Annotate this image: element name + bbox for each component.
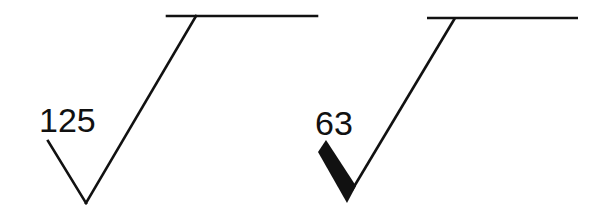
- short-leg: [48, 141, 86, 203]
- long-leg: [86, 16, 196, 203]
- bold-short-leg: [318, 140, 356, 203]
- long-leg: [352, 18, 455, 190]
- roughness-value-63: 63: [315, 106, 353, 140]
- roughness-symbol-63: [318, 18, 578, 203]
- roughness-value-125: 125: [39, 103, 96, 137]
